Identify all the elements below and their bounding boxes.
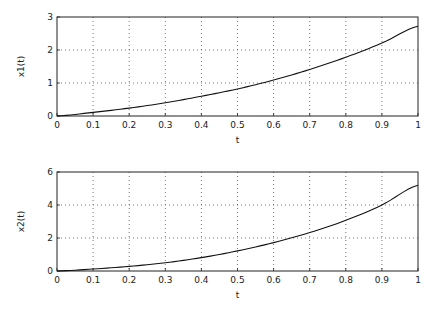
x-tick-label: 0.7 xyxy=(303,275,317,285)
x-tick-label: 0.6 xyxy=(266,275,281,285)
x-tick-label: 0.4 xyxy=(194,120,209,130)
x-tick-label: 1 xyxy=(415,275,421,285)
x-tick-label: 0.1 xyxy=(86,275,100,285)
subplot-x1: 00.10.20.30.40.50.60.70.80.910123tx1(t) xyxy=(16,12,421,145)
x-tick-label: 0.7 xyxy=(303,120,317,130)
x-tick-label: 0.8 xyxy=(339,275,354,285)
y-tick-label: 1 xyxy=(47,78,53,88)
y-tick-label: 3 xyxy=(47,12,53,22)
x-tick-label: 0.9 xyxy=(375,120,390,130)
x-tick-label: 0.6 xyxy=(266,120,281,130)
y-tick-label: 6 xyxy=(47,167,53,177)
y-tick-label: 0 xyxy=(47,266,53,276)
figure: 00.10.20.30.40.50.60.70.80.910123tx1(t) … xyxy=(0,0,437,311)
x-tick-label: 0.8 xyxy=(339,120,354,130)
x-axis-label: t xyxy=(236,290,240,300)
x-tick-label: 0.4 xyxy=(194,275,209,285)
series-line-x1t xyxy=(57,26,418,116)
x-tick-label: 0.2 xyxy=(122,275,136,285)
y-tick-label: 4 xyxy=(47,200,53,210)
y-tick-label: 2 xyxy=(47,233,53,243)
y-axis-label: x2(t) xyxy=(16,211,26,233)
x-axis-label: t xyxy=(236,135,240,145)
x-tick-label: 0.3 xyxy=(158,120,172,130)
subplot-x2: 00.10.20.30.40.50.60.70.80.910246tx2(t) xyxy=(16,167,421,300)
x-tick-label: 0.1 xyxy=(86,120,100,130)
y-tick-label: 0 xyxy=(47,111,53,121)
x-tick-label: 0 xyxy=(54,275,60,285)
x-tick-label: 0.3 xyxy=(158,275,172,285)
y-tick-label: 2 xyxy=(47,45,53,55)
x-tick-label: 0.5 xyxy=(230,120,244,130)
x-tick-label: 1 xyxy=(415,120,421,130)
x-tick-label: 0.2 xyxy=(122,120,136,130)
figure-canvas: 00.10.20.30.40.50.60.70.80.910123tx1(t) … xyxy=(0,0,437,311)
x-tick-label: 0.5 xyxy=(230,275,244,285)
x-tick-label: 0.9 xyxy=(375,275,390,285)
y-axis-label: x1(t) xyxy=(16,56,26,78)
x-tick-label: 0 xyxy=(54,120,60,130)
